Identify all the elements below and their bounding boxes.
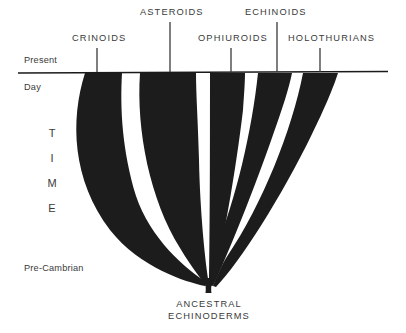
ancestral-caption: ANCESTRAL ECHINODERMS	[138, 299, 280, 322]
ancestral-caption-line-1: ANCESTRAL	[138, 299, 280, 311]
label-holothurians: HOLOTHURIANS	[288, 33, 375, 43]
present-day-baseline	[18, 72, 388, 74]
label-crinoids: CRINOIDS	[72, 33, 126, 43]
label-asteroids: ASTEROIDS	[140, 7, 204, 17]
axis-label-day: Day	[24, 82, 41, 92]
time-letter-i: I	[42, 152, 62, 164]
axis-label-present: Present	[24, 55, 57, 65]
axis-label-precambrian: Pre-Cambrian	[24, 263, 84, 273]
time-letter-t: T	[42, 127, 62, 139]
label-ophiuroids: OPHIUROIDS	[198, 33, 268, 43]
label-echinoids: ECHINOIDS	[245, 7, 307, 17]
ancestral-caption-line-2: ECHINODERMS	[138, 311, 280, 323]
phylogeny-diagram	[0, 0, 406, 333]
time-letter-m: M	[42, 177, 62, 189]
lineage-shapes	[76, 73, 338, 293]
time-letter-e: E	[42, 202, 62, 214]
label-leader-ticks	[97, 22, 320, 72]
